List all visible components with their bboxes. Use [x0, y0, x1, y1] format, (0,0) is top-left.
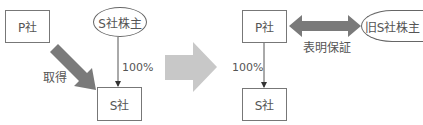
former-shareholders-ellipse: 旧S社株主 — [361, 10, 423, 42]
former-shareholders-label: 旧S社株主 — [365, 18, 421, 35]
target-company-label: S社 — [110, 96, 130, 113]
acquire-label: 取得 — [43, 68, 67, 85]
subsidiary-label: S社 — [255, 96, 275, 113]
warranty-double-arrow — [289, 15, 361, 37]
warranty-label: 表明保証 — [303, 38, 351, 55]
subsidiary-box-after: S社 — [242, 88, 287, 121]
ownership-percent-after: 100% — [232, 61, 263, 74]
parent-company-label-after: P社 — [255, 18, 274, 35]
diagram-connectors — [0, 0, 423, 125]
parent-company-label: P社 — [18, 18, 37, 35]
shareholders-ellipse: S社株主 — [93, 7, 147, 37]
ownership-percent-before: 100% — [122, 61, 153, 74]
parent-company-box-after: P社 — [242, 10, 287, 43]
target-company-box-before: S社 — [97, 87, 142, 121]
parent-company-box-before: P社 — [5, 10, 50, 43]
transition-arrow — [165, 42, 217, 92]
shareholders-label: S社株主 — [98, 14, 142, 31]
